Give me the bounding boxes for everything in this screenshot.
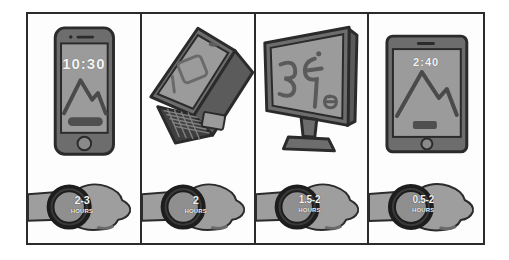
wrist-with-watch <box>256 170 368 243</box>
monitor-icon <box>256 14 368 170</box>
duration-cell-tablet: 0.5-2 HOURS <box>369 170 483 243</box>
device-cell-laptop <box>142 14 256 170</box>
laptop-icon <box>142 14 254 170</box>
duration-cell-laptop: 2 HOURS <box>142 170 256 243</box>
illustration-canvas: 10:30 <box>0 0 509 260</box>
device-cell-monitor <box>256 14 370 170</box>
smartphone-icon <box>28 14 140 170</box>
device-cell-tablet: 2:40 <box>369 14 483 170</box>
duration-cell-smartphone: 2-3 HOURS <box>28 170 142 243</box>
wrist-with-watch <box>142 170 254 243</box>
device-cell-smartphone: 10:30 <box>28 14 142 170</box>
wrist-with-watch <box>28 170 140 243</box>
duration-cell-monitor: 1.5-2 HOURS <box>256 170 370 243</box>
tablet-icon <box>369 14 483 170</box>
wrist-with-watch <box>369 170 483 243</box>
comparison-grid: 10:30 <box>26 12 485 245</box>
